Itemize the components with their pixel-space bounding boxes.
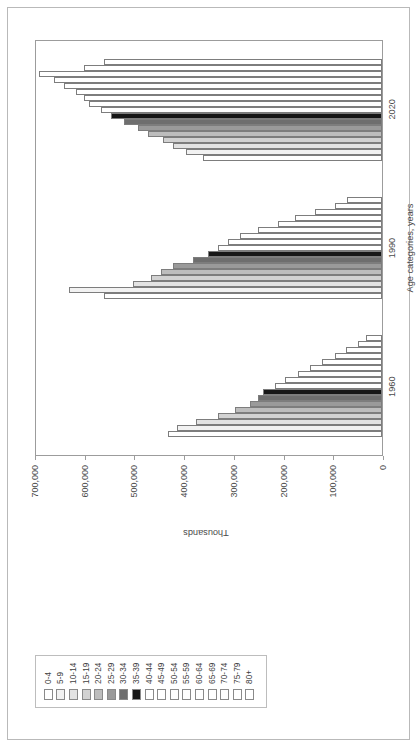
legend-label: 55-59 [182,662,191,683]
legend-swatch-icon [194,689,203,700]
bar-2020-10-14[interactable] [173,143,382,149]
bar-2020-50-54[interactable] [83,95,381,101]
bar-1990-5-9[interactable] [68,287,381,293]
bar-1960-50-54[interactable] [297,371,382,377]
bar-1990-35-39[interactable] [208,251,382,257]
bar-2020-15-19[interactable] [163,137,382,143]
bar-1990-25-29[interactable] [173,263,382,269]
value-axis-tick [134,456,135,460]
bar-groups [36,41,382,455]
bar-1960-70-74[interactable] [346,347,382,353]
bar-1960-20-24[interactable] [235,407,382,413]
value-axis-label: 200,000 [278,465,288,498]
bar-1960-25-29[interactable] [250,401,382,407]
bar-1960-35-39[interactable] [262,389,381,395]
bar-1990-65-69[interactable] [295,215,382,221]
legend-swatch-icon [81,689,90,700]
legend-item: 65-69 [205,662,218,699]
legend-item: 25-29 [104,662,117,699]
bar-1960-10-14[interactable] [195,419,381,425]
value-axis-label: 600,000 [79,465,89,498]
bar-group-1990 [36,179,382,317]
value-axis-title: Thousands [183,528,228,538]
bar-2020-60-64[interactable] [63,83,381,89]
value-axis-label: 400,000 [179,465,189,498]
value-axis-label: 100,000 [328,465,338,498]
value-axis-tick [333,456,334,460]
legend-swatch-icon [68,689,77,700]
bar-1960-55-59[interactable] [309,365,381,371]
bar-1990-10-14[interactable] [133,281,382,287]
bar-2020-55-59[interactable] [76,89,382,95]
legend-item: 10-14 [67,662,80,699]
bar-1960-0-4[interactable] [168,431,382,437]
bar-2020-75-79[interactable] [83,65,381,71]
bar-1990-20-24[interactable] [160,269,381,275]
bar-1960-5-9[interactable] [176,425,381,431]
bar-2020-40-44[interactable] [101,107,382,113]
legend-label: 25-29 [106,662,115,683]
value-axis-tick [383,456,384,460]
value-axis-label: 500,000 [129,465,139,498]
legend-label: 5-9 [56,671,65,683]
legend-swatch-icon [106,689,115,700]
bar-group-2020 [36,41,382,179]
bar-2020-25-29[interactable] [138,125,382,131]
bar-1960-40-44[interactable] [275,383,382,389]
legend-item: 45-49 [155,662,168,699]
value-axis-tick [233,456,234,460]
value-axis-label: 700,000 [30,465,40,498]
bar-1990-70-74[interactable] [314,209,381,215]
legend-label: 45-49 [157,662,166,683]
bar-1960-60-64[interactable] [322,359,382,365]
legend-swatch-icon [157,689,166,700]
bar-2020-0-4[interactable] [203,155,382,161]
bar-group-1960 [36,317,382,455]
bar-2020-80+[interactable] [103,59,381,65]
bar-1990-45-49[interactable] [227,239,381,245]
chart-stage-wrapper: 0-45-910-1415-1920-2425-2930-3435-3940-4… [0,0,417,747]
chart-legend: 0-45-910-1415-1920-2425-2930-3435-3940-4… [35,654,267,707]
bar-2020-45-49[interactable] [88,101,381,107]
bar-1960-80+[interactable] [366,335,382,341]
legend-swatch-icon [245,689,254,700]
legend-label: 65-69 [207,662,216,683]
legend-item: 35-39 [130,662,143,699]
bar-1990-0-4[interactable] [103,293,381,299]
bar-2020-70-74[interactable] [38,71,381,77]
legend-item: 30-34 [117,662,130,699]
bar-1990-80+[interactable] [347,197,382,203]
bar-1990-55-59[interactable] [257,227,381,233]
bar-1960-75-79[interactable] [358,341,382,347]
bar-1960-45-49[interactable] [285,377,382,383]
bar-1990-60-64[interactable] [277,221,381,227]
bar-1990-40-44[interactable] [217,245,381,251]
chart-stage: 0-45-910-1415-1920-2425-2930-3435-3940-4… [19,24,399,724]
bar-2020-35-39[interactable] [111,113,382,119]
bar-1960-15-19[interactable] [217,413,381,419]
bar-1990-75-79[interactable] [334,203,381,209]
value-axis-tick [184,456,185,460]
bar-1990-15-19[interactable] [150,275,381,281]
bar-1990-50-54[interactable] [240,233,382,239]
legend-label: 30-34 [119,662,128,683]
legend-swatch-icon [119,689,128,700]
bar-2020-30-34[interactable] [123,119,382,125]
bar-1960-65-69[interactable] [334,353,381,359]
legend-swatch-icon [232,689,241,700]
bar-2020-65-69[interactable] [53,77,381,83]
legend-swatch-icon [131,689,140,700]
legend-swatch-icon [220,689,229,700]
legend-label: 60-64 [194,662,203,683]
legend-label: 80+ [245,669,254,683]
category-axis-labels: 196019902020 [387,40,403,456]
bar-1960-30-34[interactable] [257,395,381,401]
legend-item: 80+ [243,662,256,699]
legend-swatch-icon [144,689,153,700]
legend-label: 40-44 [144,662,153,683]
legend-label: 20-24 [94,662,103,683]
bar-2020-5-9[interactable] [185,149,381,155]
legend-item: 40-44 [142,662,155,699]
bar-2020-20-24[interactable] [148,131,382,137]
bar-1990-30-34[interactable] [193,257,382,263]
